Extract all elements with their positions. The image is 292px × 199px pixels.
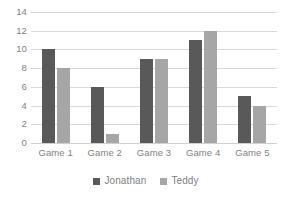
plot-area bbox=[31, 12, 277, 143]
legend-item[interactable]: Teddy bbox=[160, 176, 198, 186]
bar bbox=[189, 40, 202, 143]
bar bbox=[253, 106, 266, 143]
bar bbox=[57, 68, 70, 143]
bar bbox=[155, 59, 168, 143]
x-axis-tick-label: Game 1 bbox=[31, 146, 80, 159]
bar-group bbox=[179, 12, 228, 143]
bar-group bbox=[31, 12, 80, 143]
bar bbox=[140, 59, 153, 143]
chart-legend: JonathanTeddy bbox=[0, 176, 292, 186]
y-axis-tick-label: 12 bbox=[0, 26, 27, 36]
bar-group bbox=[228, 12, 277, 143]
y-axis-tick-label: 14 bbox=[0, 7, 27, 17]
bar-group bbox=[129, 12, 178, 143]
x-axis-tick-label: Game 2 bbox=[80, 146, 129, 159]
x-axis-tick-label: Game 4 bbox=[179, 146, 228, 159]
y-axis-tick-label: 2 bbox=[0, 120, 27, 130]
y-axis: 14121086420 bbox=[0, 12, 27, 143]
x-axis-tick-label: Game 5 bbox=[228, 146, 277, 159]
legend-label: Jonathan bbox=[104, 176, 146, 186]
x-axis: Game 1Game 2Game 3Game 4Game 5 bbox=[31, 146, 277, 160]
bar-chart: 14121086420 Game 1Game 2Game 3Game 4Game… bbox=[0, 0, 292, 199]
bar bbox=[91, 87, 104, 143]
y-axis-tick-label: 10 bbox=[0, 45, 27, 55]
bar bbox=[106, 134, 119, 143]
legend-label: Teddy bbox=[171, 176, 198, 186]
bar bbox=[204, 31, 217, 143]
y-axis-tick-label: 8 bbox=[0, 63, 27, 73]
y-axis-tick-label: 6 bbox=[0, 82, 27, 92]
bar bbox=[238, 96, 251, 143]
legend-swatch-icon bbox=[160, 178, 167, 185]
y-axis-tick-label: 4 bbox=[0, 101, 27, 111]
x-axis-tick-label: Game 3 bbox=[129, 146, 178, 159]
y-axis-tick-label: 0 bbox=[0, 138, 27, 148]
legend-swatch-icon bbox=[93, 178, 100, 185]
gridline bbox=[31, 143, 277, 144]
bar bbox=[42, 49, 55, 143]
legend-item[interactable]: Jonathan bbox=[93, 176, 146, 186]
bar-group bbox=[80, 12, 129, 143]
